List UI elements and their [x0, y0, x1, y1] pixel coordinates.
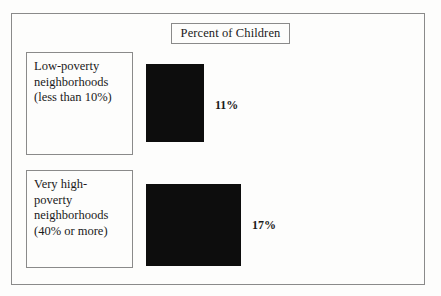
category-label-line: poverty — [34, 193, 132, 209]
chart-title-box: Percent of Children — [171, 23, 290, 44]
bar-low-poverty — [146, 64, 204, 142]
category-label-line: (less than 10%) — [34, 90, 132, 106]
chart-title: Percent of Children — [181, 27, 281, 40]
category-label-line: neighborhoods — [34, 208, 132, 224]
category-label-box-low-poverty: Low-poverty neighborhoods (less than 10%… — [26, 52, 133, 155]
bar-value-label-low-poverty: 11% — [215, 99, 238, 111]
category-label-line: neighborhoods — [34, 75, 132, 91]
category-label-line: Very high- — [34, 177, 132, 193]
category-label-line: (40% or more) — [34, 224, 132, 240]
bar-very-high-poverty — [146, 184, 241, 266]
bar-chart-figure: Percent of Children Low-poverty neighbor… — [0, 0, 441, 296]
category-label-box-very-high-poverty: Very high- poverty neighborhoods (40% or… — [26, 170, 133, 268]
category-label-line: Low-poverty — [34, 59, 132, 75]
bar-value-label-very-high-poverty: 17% — [252, 219, 276, 231]
